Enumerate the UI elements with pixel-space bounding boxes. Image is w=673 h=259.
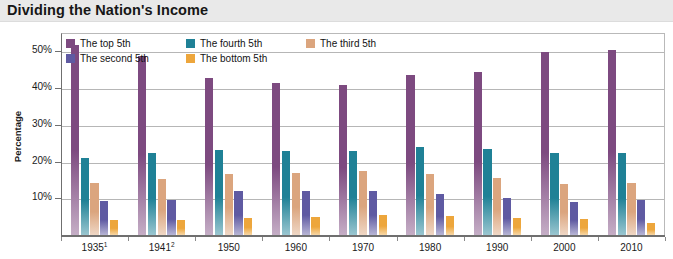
legend-item-fourth-5th[interactable]: The fourth 5th [186,36,306,51]
legend: The top 5th The fourth 5th The third 5th… [66,36,396,66]
x-tick-mark [531,237,532,241]
legend-swatch-icon [66,54,75,63]
bar [158,179,166,235]
x-tick-label: 1970 [352,242,374,253]
x-tick-label: 19412 [149,242,175,253]
bar [446,216,454,235]
x-tick-mark [464,237,465,241]
legend-item-label: The third 5th [320,38,376,49]
bar [369,191,377,235]
bar [339,85,347,235]
x-tick-label: 19351 [82,242,108,253]
x-tick-mark [262,237,263,241]
bar [205,78,213,235]
x-tick-label: 1960 [285,242,307,253]
x-tick-label: 1950 [218,242,240,253]
bar [110,220,118,235]
bar [513,218,521,235]
bar [215,150,223,235]
legend-item-label: The second 5th [80,53,149,64]
bar [292,173,300,235]
bar [71,45,79,235]
legend-item-second-5th[interactable]: The second 5th [66,51,186,66]
legend-item-bottom-5th[interactable]: The bottom 5th [186,51,306,66]
x-tick-label: 2000 [553,242,575,253]
legend-swatch-icon [306,39,315,48]
bar [647,223,655,235]
y-tick-label: 20% [5,155,52,166]
x-tick-label: 1980 [419,242,441,253]
x-tick-mark [128,237,129,241]
bar [436,194,444,235]
legend-swatch-icon [186,39,195,48]
y-tick-label: 50% [5,44,52,55]
x-tick-mark [195,237,196,241]
bar [138,56,146,235]
y-tick-label: 30% [5,118,52,129]
page-title: Dividing the Nation's Income [7,2,208,18]
bar [580,219,588,235]
x-tick-label: 1990 [486,242,508,253]
bar [426,174,434,235]
title-band: Dividing the Nation's Income [0,0,673,22]
bar [379,215,387,235]
legend-item-top-5th[interactable]: The top 5th [66,36,186,51]
bar [560,184,568,235]
bar [302,191,310,235]
bar [177,220,185,235]
bar [272,83,280,235]
left-margin-stripe [0,22,5,259]
legend-item-label: The bottom 5th [200,53,267,64]
title-divider [0,21,673,22]
bar [225,174,233,235]
bar [618,153,626,235]
x-tick-mark [397,237,398,241]
bar [503,198,511,235]
bar [483,149,491,235]
bar [627,183,635,235]
chart-figure: Dividing the Nation's Income Percentage … [0,0,673,259]
bar [244,218,252,235]
bar [570,202,578,235]
x-tick-mark [665,237,666,241]
y-tick-label: 10% [5,191,52,202]
legend-swatch-icon [66,39,75,48]
x-tick-mark [61,237,62,241]
bar [359,171,367,235]
bar [474,72,482,235]
bar [608,50,616,235]
bar [416,147,424,235]
bar [100,201,108,235]
x-tick-mark [329,237,330,241]
bar [550,153,558,235]
bar [234,191,242,235]
legend-item-third-5th[interactable]: The third 5th [306,36,396,51]
x-axis: 19351194121950196019701980199020002010 [61,237,665,259]
legend-item-label: The top 5th [80,38,131,49]
bar [148,153,156,235]
bar [406,75,414,235]
legend-item-label: The fourth 5th [200,38,262,49]
bar [81,158,89,235]
bar [349,151,357,235]
bar [90,183,98,235]
x-tick-label: 2010 [620,242,642,253]
legend-swatch-icon [186,54,195,63]
x-tick-mark [598,237,599,241]
bar [541,52,549,235]
bar [167,200,175,235]
bar [282,151,290,235]
bar [637,200,645,235]
y-tick-label: 40% [5,81,52,92]
bar [493,178,501,235]
bar [311,217,319,235]
